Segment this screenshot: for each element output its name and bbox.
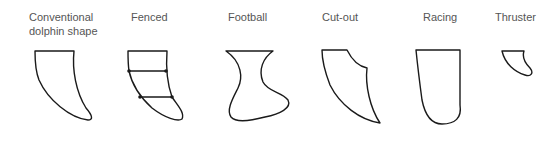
fin-thruster-shape — [502, 51, 532, 76]
fence-joint — [127, 69, 131, 73]
fin-fenced-shape — [128, 51, 183, 120]
fin-shapes — [0, 0, 547, 146]
fin-football-shape — [226, 51, 289, 121]
fin-conventional-shape — [35, 51, 92, 120]
fin-cutout-shape — [322, 50, 380, 123]
fin-racing-shape — [416, 50, 460, 124]
fence-joint — [138, 95, 142, 99]
fence-joint — [170, 95, 174, 99]
fence-joint — [164, 69, 168, 73]
